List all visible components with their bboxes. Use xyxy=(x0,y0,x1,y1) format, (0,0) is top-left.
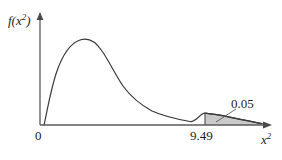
y-axis-label-tail: ) xyxy=(26,13,30,28)
origin-tick-label: 0 xyxy=(35,129,42,142)
y-axis-arrow-icon xyxy=(37,12,44,20)
x-axis-label-exponent: 2 xyxy=(267,131,271,141)
critical-value-tick-label: 9.49 xyxy=(190,129,213,142)
chi-square-distribution-figure xyxy=(0,0,282,160)
density-curve xyxy=(44,39,262,125)
y-axis-label-head: f(x xyxy=(8,13,22,28)
tail-shaded-region xyxy=(205,113,262,125)
x-axis-label: x2 xyxy=(261,133,271,146)
x-axis-arrow-icon xyxy=(263,121,272,128)
tail-area-label: 0.05 xyxy=(231,97,254,110)
y-axis-label: f(x2) xyxy=(8,14,30,27)
